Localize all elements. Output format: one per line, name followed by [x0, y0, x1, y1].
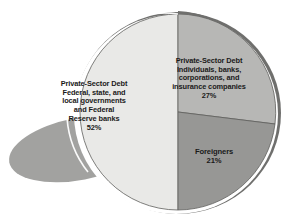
slice-label-government: Private-Sector Debt Federal, state, and …: [40, 80, 148, 132]
slice-percent-private-sector: 27%: [158, 92, 260, 101]
label-line: Private-Sector Debt: [176, 56, 243, 65]
label-line: local governments: [62, 96, 126, 105]
label-line: Federal, state, and: [63, 88, 126, 97]
slice-percent-foreigners: 21%: [176, 157, 252, 166]
slice-label-foreigners: Foreigners 21%: [176, 148, 252, 166]
pie-chart: Private-Sector Debt Federal, state, and …: [0, 0, 294, 222]
label-line: Foreigners: [195, 147, 233, 156]
label-line: Private-Sector Debt: [61, 79, 128, 88]
slice-label-private-sector: Private-Sector Debt Individuals, banks, …: [158, 57, 260, 101]
label-line: Individuals, banks,: [177, 65, 241, 74]
label-line: and Federal: [74, 105, 114, 114]
slice-percent-government: 52%: [40, 124, 148, 133]
label-line: insurance companies: [172, 82, 246, 91]
label-line: Reserve banks: [69, 114, 120, 123]
label-line: corporations, and: [179, 73, 240, 82]
